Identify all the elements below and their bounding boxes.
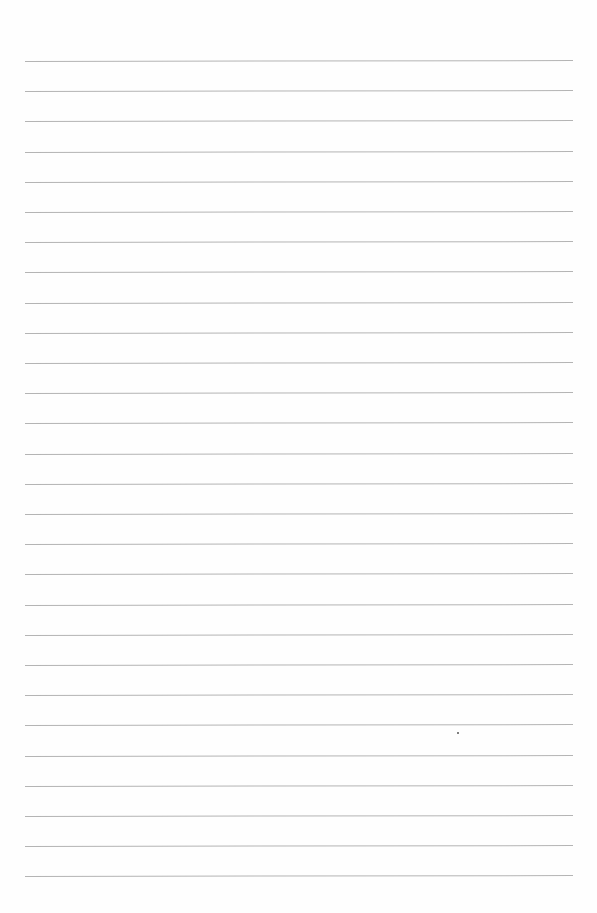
ruled-line [25,332,573,334]
stray-mark [457,732,459,734]
ruled-line [25,90,573,92]
ruled-line [25,543,573,545]
ruled-line [25,513,573,515]
ruled-line [25,362,573,364]
ruled-line [25,875,573,877]
ruled-line [25,181,573,183]
lined-paper-page [0,0,597,913]
ruled-line [25,241,573,243]
ruled-line [25,815,573,817]
ruled-line [25,120,573,122]
ruled-line [25,664,573,666]
ruled-line [25,604,573,606]
ruled-line [25,755,573,757]
ruled-line [25,453,573,455]
ruled-line [25,785,573,787]
ruled-line [25,151,573,153]
ruled-line [25,211,573,213]
ruled-line [25,271,573,273]
ruled-line [25,845,573,847]
ruled-line [25,694,573,696]
ruled-line [25,483,573,485]
ruled-line [25,634,573,636]
ruled-line [25,422,573,424]
ruled-line [25,724,573,726]
ruled-line [25,392,573,394]
ruled-line [25,60,573,62]
ruled-line [25,302,573,304]
ruled-line [25,573,573,575]
